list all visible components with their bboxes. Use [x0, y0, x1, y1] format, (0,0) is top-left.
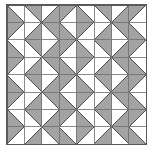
triangle-tiling-svg [0, 0, 155, 156]
pattern-figure-container [0, 0, 155, 156]
